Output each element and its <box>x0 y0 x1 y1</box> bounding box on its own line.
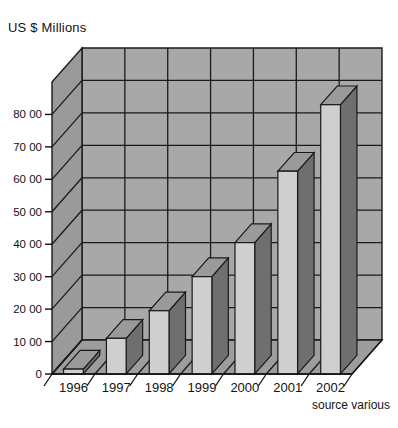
bar-2001 <box>278 153 314 374</box>
svg-text:80 00: 80 00 <box>13 108 42 120</box>
bar-2000 <box>235 224 271 374</box>
y-axis-ticks <box>45 114 52 374</box>
x-axis-tick-labels: 1996199719981999200020012002 <box>59 380 345 395</box>
bar-chart-figure: US $ Millions 010 0020 0030 0040 0050 00… <box>0 0 398 428</box>
svg-text:1997: 1997 <box>102 380 131 395</box>
svg-text:2000: 2000 <box>230 380 259 395</box>
svg-text:40 00: 40 00 <box>13 238 42 250</box>
svg-text:10 00: 10 00 <box>13 336 42 348</box>
svg-text:70 00: 70 00 <box>13 141 42 153</box>
svg-text:50 00: 50 00 <box>13 206 42 218</box>
bar-2002 <box>321 86 357 374</box>
source-annotation: source various <box>312 398 390 412</box>
y-axis-tick-labels: 010 0020 0030 0040 0050 0060 0070 0080 0… <box>13 108 42 380</box>
svg-text:60 00: 60 00 <box>13 173 42 185</box>
svg-text:1996: 1996 <box>59 380 88 395</box>
svg-text:20 00: 20 00 <box>13 303 42 315</box>
bar-1999 <box>192 258 228 374</box>
bar-1998 <box>149 292 185 374</box>
svg-text:0: 0 <box>36 368 42 380</box>
svg-text:1998: 1998 <box>145 380 174 395</box>
chart-plot-area: 010 0020 0030 0040 0050 0060 0070 0080 0… <box>0 0 398 428</box>
svg-text:30 00: 30 00 <box>13 271 42 283</box>
svg-text:2001: 2001 <box>273 380 302 395</box>
svg-text:2002: 2002 <box>316 380 345 395</box>
svg-text:1999: 1999 <box>188 380 217 395</box>
